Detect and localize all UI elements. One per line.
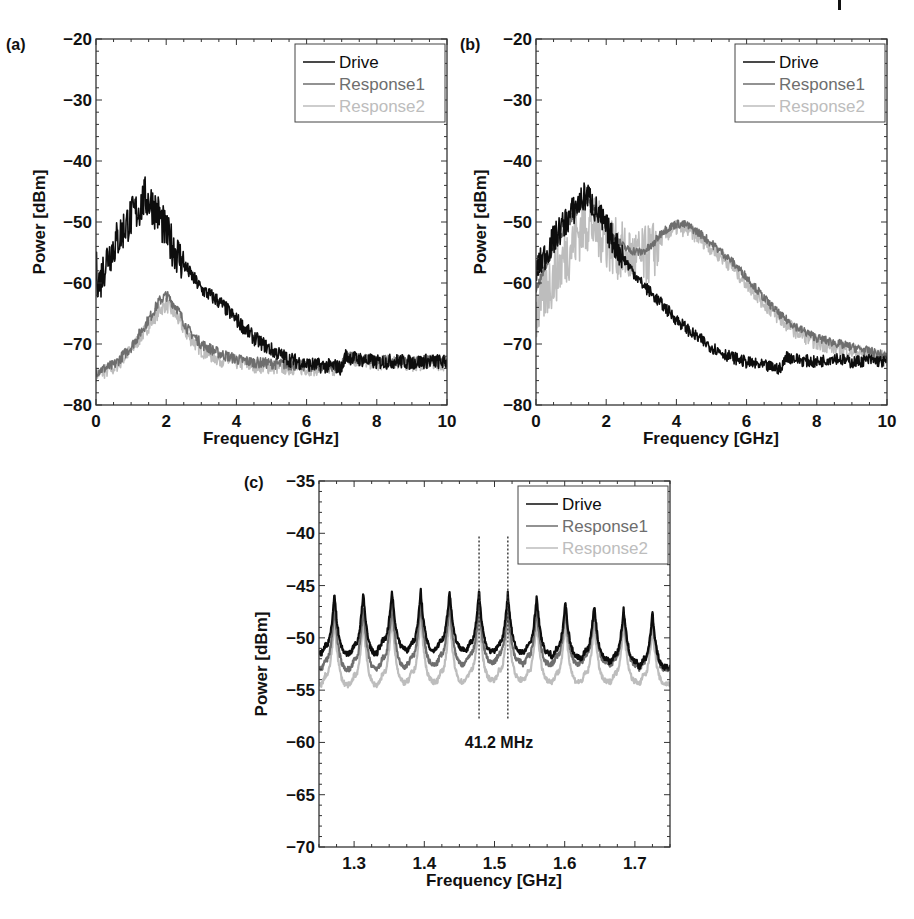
y-tick-label: −70 [63,335,92,354]
y-tick-label: −20 [503,30,532,49]
y-tick-label: −60 [286,733,315,752]
y-tick-label: −45 [286,577,315,596]
y-tick-label: −80 [503,396,532,415]
series-group [536,183,887,374]
legend-label-response1: Response1 [779,75,865,94]
series-group [319,589,670,688]
x-tick-label: 1.3 [342,854,366,873]
x-axis-label-a: Frequency [GHz] [203,429,339,448]
plot-area-c: 1.31.41.51.61.7−70−65−60−55−50−45−40−35D… [286,472,670,873]
series-drive-line [96,177,447,375]
y-tick-label: −30 [503,91,532,110]
legend-label-response2: Response2 [779,97,865,116]
y-tick-label: −55 [286,681,315,700]
x-tick-label: 8 [812,412,821,431]
series-group [96,177,447,382]
legend-label-drive: Drive [779,53,819,72]
legend: DriveResponse1Response2 [735,44,885,122]
x-axis-label-c: Frequency [GHz] [426,871,562,890]
x-tick-label: 10 [878,412,897,431]
legend-label-response2: Response2 [562,539,648,558]
y-tick-label: −65 [286,786,315,805]
x-axis-label-b: Frequency [GHz] [643,429,779,448]
x-tick-label: 2 [601,412,610,431]
y-tick-label: −40 [503,152,532,171]
y-tick-label: −70 [503,335,532,354]
legend-label-drive: Drive [339,53,379,72]
y-axis-label-c: Power [dBm] [252,612,271,717]
y-axis-label-b: Power [dBm] [471,170,490,275]
panel-label-c: (c) [244,474,264,491]
comb-spacing-annotation: 41.2 MHz [465,734,533,751]
legend-label-response2: Response2 [339,97,425,116]
y-tick-label: −60 [503,274,532,293]
legend: DriveResponse1Response2 [518,486,668,564]
y-tick-label: −40 [286,524,315,543]
plot-area-a: 0246810−80−70−60−50−40−30−20DriveRespons… [63,30,456,431]
header-marker [838,0,841,10]
x-tick-label: 1.7 [623,854,647,873]
y-axis-label-a: Power [dBm] [30,170,49,275]
series-response1-line [319,599,670,672]
panel-c: (c) 1.31.41.51.61.7−70−65−60−55−50−45−40… [244,472,670,890]
x-tick-label: 0 [531,412,540,431]
x-tick-label: 8 [372,412,381,431]
legend-label-response1: Response1 [339,75,425,94]
y-tick-label: −20 [63,30,92,49]
y-tick-label: −50 [63,213,92,232]
plot-area-b: 0246810−80−70−60−50−40−30−20DriveRespons… [503,30,896,431]
y-tick-label: −50 [503,213,532,232]
y-tick-label: −30 [63,91,92,110]
y-tick-label: −60 [63,274,92,293]
panel-label-b: (b) [460,36,480,53]
y-tick-label: −80 [63,396,92,415]
legend-label-drive: Drive [562,495,602,514]
legend: DriveResponse1Response2 [295,44,445,122]
y-tick-label: −50 [286,629,315,648]
panel-a: (a) 0246810−80−70−60−50−40−30−20DriveRes… [6,30,456,448]
legend-label-response1: Response1 [562,517,648,536]
figure: (a) 0246810−80−70−60−50−40−30−20DriveRes… [0,0,914,919]
x-tick-label: 2 [161,412,170,431]
y-tick-label: −40 [63,152,92,171]
y-tick-label: −35 [286,472,315,491]
x-tick-label: 10 [438,412,457,431]
panel-label-a: (a) [6,36,26,53]
y-tick-label: −70 [286,838,315,857]
series-response2-line [536,197,887,366]
x-tick-label: 0 [91,412,100,431]
panel-b: (b) 0246810−80−70−60−50−40−30−20DriveRes… [460,30,896,448]
